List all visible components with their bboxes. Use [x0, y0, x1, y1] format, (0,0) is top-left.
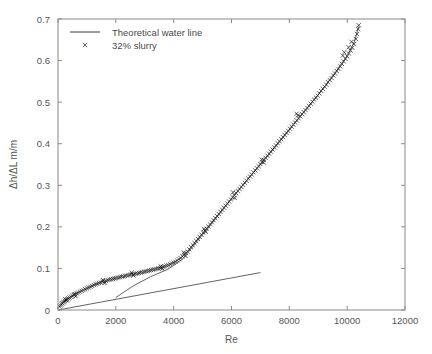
series-scatter: [58, 23, 361, 309]
axes-frame-layer: [58, 19, 405, 310]
data-point: [349, 40, 353, 44]
legend-label: 32% slurry: [112, 40, 157, 51]
y-tick-label: 0.1: [37, 263, 50, 274]
plot-frame: [58, 19, 405, 310]
scatter-markers-layer: [58, 23, 361, 309]
y-tick-label: 0.6: [37, 55, 50, 66]
y-tick-label: 0: [45, 305, 50, 316]
y-tick-label: 0.5: [37, 97, 50, 108]
y-tick-label: 0.3: [37, 180, 50, 191]
series-line: [58, 273, 260, 310]
chart-figure: 02000400060008000100001200000.10.20.30.4…: [0, 0, 432, 354]
y-tick-label: 0.2: [37, 221, 50, 232]
x-tick-label: 4000: [163, 315, 184, 326]
x-axis-label: Re: [225, 334, 238, 345]
lines-layer: [58, 26, 359, 310]
x-tick-label: 10000: [334, 315, 360, 326]
y-tick-label: 0.7: [37, 14, 50, 25]
legend-label: Theoretical water line: [112, 27, 202, 38]
series-line: [116, 26, 359, 297]
y-tick-label: 0.4: [37, 138, 50, 149]
data-point: [159, 264, 163, 268]
legend-marker-swatch: [83, 43, 87, 47]
legend: Theoretical water line32% slurry: [70, 27, 202, 51]
x-tick-label: 0: [55, 315, 60, 326]
x-tick-label: 12000: [392, 315, 418, 326]
x-tick-label: 8000: [279, 315, 300, 326]
y-axis-label: Δh/ΔL m/m: [8, 140, 19, 189]
x-tick-label: 2000: [105, 315, 126, 326]
chart-svg: 02000400060008000100001200000.10.20.30.4…: [0, 0, 432, 354]
x-tick-label: 6000: [221, 315, 242, 326]
